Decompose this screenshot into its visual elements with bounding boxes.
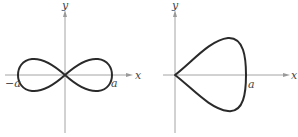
left-neg-a-label: −a — [5, 77, 21, 90]
lemniscate-graph: y x −a a — [5, 0, 142, 133]
right-x-label: x — [291, 69, 298, 82]
teardrop-curve — [175, 38, 246, 111]
left-x-label: x — [135, 69, 142, 82]
right-y-label: y — [171, 0, 179, 12]
right-a-label: a — [248, 78, 255, 91]
left-a-label: a — [111, 77, 118, 90]
right-x-arrow-icon — [283, 73, 290, 77]
left-y-label: y — [61, 0, 69, 12]
teardrop-graph: y x a — [163, 0, 298, 133]
figure-canvas: y x −a a y x a — [0, 0, 298, 137]
left-x-arrow-icon — [126, 73, 133, 77]
